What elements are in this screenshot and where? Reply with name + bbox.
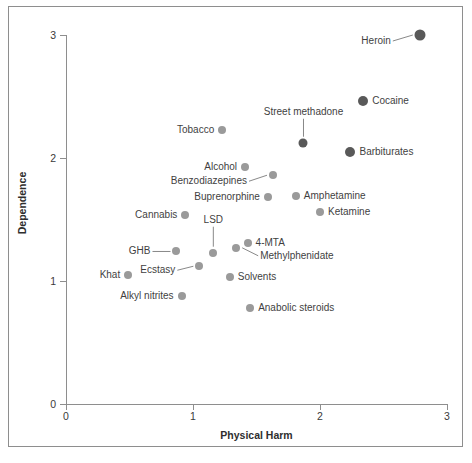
- data-point-marker[interactable]: [218, 126, 226, 134]
- data-point-label: Ketamine: [328, 207, 370, 217]
- data-point-marker[interactable]: [246, 304, 254, 312]
- data-point-marker[interactable]: [232, 244, 240, 252]
- x-tick-label: 1: [190, 410, 196, 422]
- data-point-marker[interactable]: [244, 239, 252, 247]
- y-tick-label: 3: [44, 29, 56, 41]
- data-point-label: Benzodiazepines: [171, 176, 247, 186]
- y-axis-title: Dependence: [16, 143, 28, 263]
- y-tick-mark: [60, 35, 66, 36]
- data-point-label: Barbiturates: [359, 147, 413, 157]
- data-point-marker[interactable]: [292, 192, 300, 200]
- data-point-marker[interactable]: [181, 211, 189, 219]
- data-point-label: Alkyl nitrites: [120, 291, 173, 301]
- y-tick-mark: [60, 404, 66, 405]
- data-point-label: Buprenorphine: [194, 192, 260, 202]
- y-tick-mark: [60, 158, 66, 159]
- x-axis-line: [66, 404, 447, 405]
- data-point-marker[interactable]: [299, 139, 308, 148]
- data-point-label: GHB: [129, 246, 151, 256]
- data-point-label: Solvents: [238, 272, 276, 282]
- data-point-label: Methylphenidate: [260, 251, 333, 261]
- data-point-label: Heroin: [361, 36, 390, 46]
- data-point-marker[interactable]: [345, 147, 355, 157]
- label-leader-lines: [0, 0, 472, 463]
- data-point-marker[interactable]: [124, 271, 132, 279]
- data-point-label: Cannabis: [135, 210, 177, 220]
- plot-area: 0123 0123 HeroinCocaineBarbituratesStree…: [0, 0, 472, 463]
- data-point-marker[interactable]: [195, 262, 203, 270]
- data-point-label: Tobacco: [177, 125, 214, 135]
- data-point-marker[interactable]: [226, 273, 234, 281]
- data-point-label: Ecstasy: [140, 265, 175, 275]
- data-point-label: Street methadone: [264, 107, 344, 117]
- data-point-label: Anabolic steroids: [258, 303, 334, 313]
- data-point-label: 4-MTA: [256, 238, 285, 248]
- data-point-label: LSD: [204, 215, 223, 225]
- x-tick-label: 3: [444, 410, 450, 422]
- data-point-marker[interactable]: [316, 208, 324, 216]
- data-point-marker[interactable]: [172, 247, 180, 255]
- x-tick-label: 0: [63, 410, 69, 422]
- y-tick-label: 0: [44, 398, 56, 410]
- scatter-plot-figure: 0123 0123 HeroinCocaineBarbituratesStree…: [0, 0, 472, 463]
- y-axis-line: [66, 35, 67, 404]
- data-point-marker[interactable]: [241, 163, 249, 171]
- y-tick-label: 1: [44, 275, 56, 287]
- x-tick-label: 2: [317, 410, 323, 422]
- data-point-marker[interactable]: [178, 292, 186, 300]
- data-point-label: Amphetamine: [304, 191, 366, 201]
- data-point-label: Khat: [100, 270, 121, 280]
- data-point-marker[interactable]: [269, 171, 277, 179]
- y-tick-label: 2: [44, 152, 56, 164]
- data-point-marker[interactable]: [358, 96, 368, 106]
- data-point-label: Alcohol: [204, 162, 237, 172]
- data-point-marker[interactable]: [264, 193, 272, 201]
- y-tick-mark: [60, 281, 66, 282]
- data-point-marker[interactable]: [415, 30, 426, 41]
- data-point-marker[interactable]: [209, 249, 217, 257]
- x-axis-title: Physical Harm: [66, 429, 447, 441]
- data-point-label: Cocaine: [372, 96, 409, 106]
